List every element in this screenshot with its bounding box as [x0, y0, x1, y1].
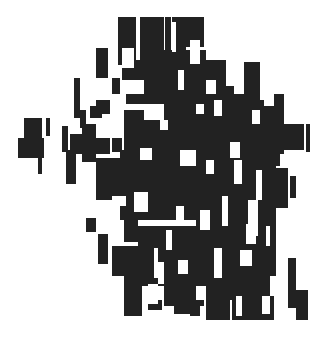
dark-block: [290, 176, 296, 198]
light-gap: [196, 286, 206, 300]
dark-block: [288, 258, 296, 308]
light-gap: [234, 160, 242, 184]
dark-block: [284, 124, 304, 150]
light-gap: [122, 48, 134, 68]
dark-block: [124, 218, 138, 242]
light-gap: [256, 170, 262, 200]
light-gap: [134, 192, 148, 212]
light-gap: [214, 100, 222, 116]
dark-block: [98, 234, 108, 264]
dark-block: [96, 158, 120, 200]
light-gap: [178, 260, 188, 274]
light-gap: [148, 284, 158, 304]
light-gap: [176, 206, 184, 222]
dark-block: [18, 138, 44, 158]
light-gap: [206, 80, 216, 94]
dark-block: [306, 124, 310, 152]
light-gap: [110, 112, 120, 122]
dark-block: [296, 290, 308, 320]
dark-block: [46, 118, 50, 136]
dark-block: [38, 156, 42, 174]
light-gap: [140, 148, 152, 160]
light-gap: [160, 120, 168, 130]
light-gap: [214, 248, 222, 278]
light-gap: [154, 248, 158, 278]
dark-block: [62, 126, 68, 152]
light-gap: [266, 226, 270, 246]
light-gap: [166, 230, 172, 250]
dark-block: [96, 138, 110, 154]
light-gap: [270, 276, 276, 296]
light-gap: [178, 70, 184, 90]
light-gap: [112, 196, 126, 206]
light-gap: [222, 196, 228, 226]
dark-block: [174, 300, 190, 314]
light-gap: [180, 150, 196, 166]
dark-block: [112, 78, 120, 94]
dark-block: [268, 168, 288, 208]
light-gap: [206, 160, 214, 174]
light-gap: [240, 250, 252, 266]
light-gap: [230, 142, 240, 158]
dark-block: [206, 276, 230, 320]
light-gap: [158, 262, 164, 284]
light-gap: [246, 224, 256, 244]
light-gap: [252, 110, 260, 124]
dark-block: [66, 150, 76, 184]
light-gap: [236, 296, 242, 316]
light-gap: [190, 40, 200, 64]
light-gap: [134, 80, 144, 94]
light-gap: [262, 296, 270, 314]
dark-block: [90, 106, 102, 118]
dark-block: [124, 276, 142, 316]
dark-block: [86, 218, 96, 232]
light-gap: [200, 210, 210, 230]
light-gap: [172, 22, 176, 52]
dark-block: [24, 118, 42, 140]
abstract-block-artwork: [0, 0, 326, 340]
light-gap: [196, 104, 204, 114]
dark-block: [124, 110, 144, 150]
dark-block: [96, 48, 108, 78]
